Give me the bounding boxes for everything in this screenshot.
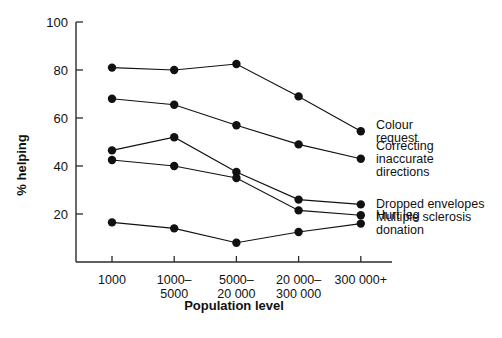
- data-point-marker: [232, 60, 240, 68]
- legend-group: ColourrequestCorrectinginaccuratedirecti…: [376, 118, 484, 237]
- y-tick-label: 100: [46, 15, 68, 30]
- data-point-marker: [170, 133, 178, 141]
- data-point-marker: [108, 218, 116, 226]
- data-point-marker: [170, 66, 178, 74]
- legend-label: Correctinginaccuratedirections: [376, 139, 434, 179]
- data-point-marker: [232, 121, 240, 129]
- data-point-marker: [108, 63, 116, 71]
- x-tick-label: 20 000–300 000: [276, 273, 321, 301]
- chart-container: 20406080100 10001000–50005000–20 00020 0…: [0, 0, 502, 338]
- series-lines-group: [112, 64, 361, 243]
- data-point-marker: [357, 155, 365, 163]
- y-axis-ticks: [76, 22, 83, 214]
- y-tick-label: 80: [54, 63, 68, 78]
- x-tick-label: 5000–20 000: [217, 273, 255, 301]
- data-point-marker: [108, 95, 116, 103]
- data-point-marker: [294, 140, 302, 148]
- y-tick-label: 60: [54, 111, 68, 126]
- data-point-marker: [294, 92, 302, 100]
- data-point-marker: [170, 224, 178, 232]
- y-tick-label: 20: [54, 207, 68, 222]
- data-point-marker: [294, 206, 302, 214]
- x-tick-label: 300 000+: [335, 273, 387, 287]
- x-axis-tick-labels: 10001000–50005000–20 00020 000–300 00030…: [98, 273, 387, 301]
- y-axis-title: % helping: [14, 134, 29, 195]
- data-point-marker: [294, 228, 302, 236]
- series-markers-group: [108, 60, 365, 247]
- data-point-marker: [357, 127, 365, 135]
- data-point-marker: [170, 101, 178, 109]
- y-tick-label: 40: [54, 159, 68, 174]
- data-point-marker: [108, 156, 116, 164]
- legend-label: Multiple sclerosisdonation: [376, 210, 471, 237]
- data-point-marker: [294, 195, 302, 203]
- data-point-marker: [170, 162, 178, 170]
- data-point-marker: [232, 174, 240, 182]
- data-point-marker: [357, 219, 365, 227]
- line-chart-plot: 20406080100 10001000–50005000–20 00020 0…: [0, 0, 502, 338]
- data-point-marker: [357, 211, 365, 219]
- y-axis-tick-labels: 20406080100: [46, 15, 68, 222]
- data-point-marker: [108, 146, 116, 154]
- x-axis-title: Population level: [184, 298, 284, 313]
- x-tick-label: 1000: [98, 273, 126, 287]
- data-point-marker: [357, 200, 365, 208]
- x-tick-label: 1000–5000: [157, 273, 192, 301]
- data-point-marker: [232, 239, 240, 247]
- x-axis-ticks: [112, 256, 361, 262]
